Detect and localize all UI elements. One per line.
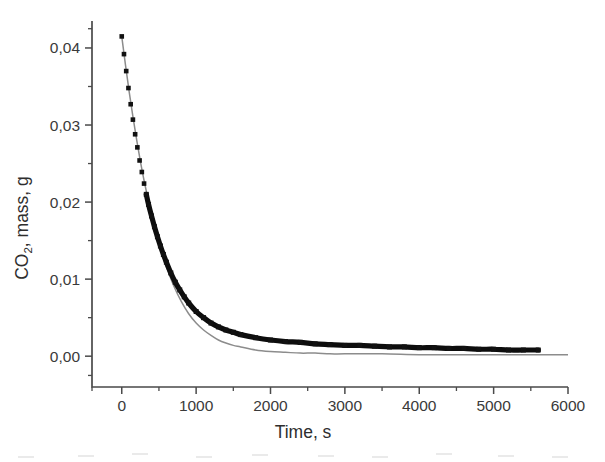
data-point-marker: [417, 345, 422, 350]
data-point-marker: [135, 145, 140, 150]
data-point-marker: [402, 344, 407, 349]
data-point-marker: [216, 324, 221, 329]
y-axis-title-rest: , mass, g: [12, 176, 32, 247]
data-point-marker: [328, 342, 333, 347]
data-point-marker: [506, 348, 511, 353]
data-point-marker: [158, 243, 163, 248]
data-point-marker: [122, 52, 127, 57]
x-tick-label: 1000: [179, 397, 214, 414]
data-point-marker: [146, 202, 151, 207]
data-point-marker: [432, 345, 437, 350]
data-point-marker: [372, 344, 377, 349]
data-point-marker: [231, 330, 236, 335]
data-point-marker: [140, 170, 145, 175]
y-tick-label: 0,02: [50, 194, 80, 211]
y-tick-label: 0,03: [50, 117, 80, 134]
data-point-marker: [142, 181, 147, 186]
data-point-marker: [223, 327, 228, 332]
x-tick-label: 6000: [551, 397, 586, 414]
data-point-marker: [253, 335, 258, 340]
co2-mass-vs-time-plot: 0100020003000400050006000 0,000,010,020,…: [0, 0, 605, 462]
x-tick-label: 5000: [476, 397, 511, 414]
data-point-marker: [342, 343, 347, 348]
data-point-marker: [209, 321, 214, 326]
data-point-marker: [194, 309, 199, 314]
x-tick-label: 4000: [402, 397, 437, 414]
x-axis-title-group: Time, s: [275, 422, 332, 442]
data-point-marker: [144, 192, 149, 197]
data-point-marker: [298, 340, 303, 345]
data-point-marker: [137, 158, 142, 163]
x-tick-label: 3000: [328, 397, 363, 414]
y-axis-title-main: CO: [12, 254, 32, 280]
data-point-marker: [161, 252, 166, 257]
data-point-marker: [447, 346, 452, 351]
data-point-marker: [177, 287, 182, 292]
data-point-marker: [238, 332, 243, 337]
plot-background: [0, 0, 605, 462]
data-point-marker: [149, 213, 154, 218]
data-point-marker: [126, 86, 131, 91]
x-tick-label: 0: [117, 397, 126, 414]
data-point-marker: [186, 301, 191, 306]
y-axis-title-group: CO2, mass, g: [12, 176, 34, 280]
data-point-marker: [152, 224, 157, 229]
data-point-marker: [173, 280, 178, 285]
data-point-marker: [313, 341, 318, 346]
x-tick-label: 2000: [253, 397, 288, 414]
data-point-marker: [283, 339, 288, 344]
data-point-marker: [119, 34, 124, 39]
data-point-marker: [124, 69, 129, 74]
y-axis-title: CO2, mass, g: [12, 176, 34, 280]
data-point-marker: [387, 344, 392, 349]
y-tick-label: 0,04: [50, 39, 81, 56]
data-point-marker: [268, 338, 273, 343]
data-point-marker: [357, 343, 362, 348]
data-point-marker: [133, 132, 138, 137]
data-point-marker: [521, 348, 526, 353]
data-point-marker: [536, 348, 541, 353]
data-point-marker: [461, 346, 466, 351]
data-point-marker: [131, 117, 136, 122]
x-axis-title: Time, s: [275, 422, 332, 442]
data-point-marker: [168, 270, 173, 275]
data-point-marker: [155, 234, 160, 239]
y-tick-label: 0,00: [50, 348, 81, 365]
data-point-marker: [128, 102, 133, 107]
data-point-marker: [491, 347, 496, 352]
data-point-marker: [182, 294, 187, 299]
y-tick-label: 0,01: [50, 271, 80, 288]
data-point-marker: [476, 347, 481, 352]
data-point-marker: [201, 315, 206, 320]
data-point-marker: [164, 260, 169, 265]
chart-figure: 0100020003000400050006000 0,000,010,020,…: [0, 0, 605, 462]
